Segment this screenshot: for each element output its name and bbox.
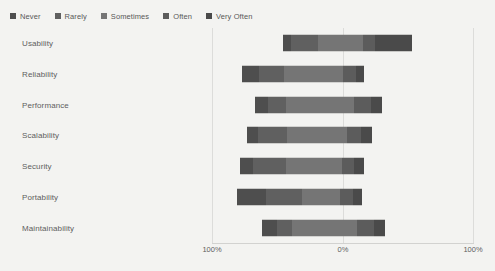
bar-segment-very-often[interactable] (374, 219, 384, 236)
legend-item-label: Never (20, 12, 41, 21)
category-label-scalability: Scalability (22, 131, 59, 140)
bar-segment-never[interactable] (247, 127, 257, 144)
legend-item-very-often[interactable]: Very Often (206, 12, 252, 21)
stacked-bar-scalability[interactable] (247, 127, 371, 144)
chart-row: Scalability (0, 120, 495, 151)
bar-segment-rarely[interactable] (291, 35, 318, 52)
bar-segment-sometimes[interactable] (318, 35, 363, 52)
bar-segment-rarely[interactable] (259, 66, 284, 83)
bar-segment-rarely[interactable] (266, 188, 303, 205)
bar-segment-never[interactable] (240, 158, 253, 175)
legend-item-never[interactable]: Never (10, 12, 41, 21)
bar-segment-sometimes[interactable] (286, 158, 342, 175)
likert-chart: NeverRarelySometimesOftenVery Often Usab… (0, 0, 495, 271)
legend-item-label: Rarely (65, 12, 87, 21)
stacked-bar-maintainability[interactable] (262, 219, 385, 236)
bar-segment-rarely[interactable] (258, 127, 288, 144)
bar-segment-sometimes[interactable] (287, 127, 347, 144)
legend-item-label: Sometimes (111, 12, 149, 21)
legend-square-swatch (163, 13, 169, 19)
bar-segment-very-often[interactable] (371, 96, 382, 113)
category-label-portability: Portability (22, 192, 58, 201)
legend-item-label: Very Often (216, 12, 252, 21)
bar-segment-never[interactable] (255, 96, 268, 113)
chart-row: Performance (0, 89, 495, 120)
stacked-bar-performance[interactable] (255, 96, 382, 113)
bar-segment-often[interactable] (354, 96, 371, 113)
legend-square-swatch (55, 13, 61, 19)
chart-row: Usability (0, 28, 495, 59)
bar-segment-very-often[interactable] (356, 66, 364, 83)
legend-square-swatch (206, 13, 212, 19)
category-label-usability: Usability (22, 39, 53, 48)
bar-segment-rarely[interactable] (268, 96, 285, 113)
stacked-bar-reliability[interactable] (242, 66, 364, 83)
legend-square-swatch (10, 13, 16, 19)
chart-row: Maintainability (0, 212, 495, 243)
legend-item-often[interactable]: Often (163, 12, 192, 21)
stacked-bar-usability[interactable] (283, 35, 412, 52)
bar-segment-rarely[interactable] (253, 158, 286, 175)
bar-segment-often[interactable] (343, 66, 356, 83)
bar-segment-often[interactable] (363, 35, 375, 52)
category-label-reliability: Reliability (22, 70, 57, 79)
bar-segment-very-often[interactable] (361, 127, 371, 144)
x-axis-line (212, 243, 474, 244)
legend-item-rarely[interactable]: Rarely (55, 12, 87, 21)
bar-segment-often[interactable] (340, 188, 353, 205)
category-label-maintainability: Maintainability (22, 223, 74, 232)
legend-item-sometimes[interactable]: Sometimes (101, 12, 149, 21)
chart-row: Reliability (0, 59, 495, 90)
chart-row: Security (0, 151, 495, 182)
x-tick-label: 100% (202, 245, 221, 254)
x-axis-tick-labels: 100%0%100% (0, 245, 495, 259)
legend-square-swatch (101, 13, 107, 19)
x-tick-label: 0% (338, 245, 349, 254)
stacked-bar-portability[interactable] (237, 188, 363, 205)
chart-row: Portability (0, 182, 495, 213)
bar-segment-very-often[interactable] (354, 158, 364, 175)
bar-segment-sometimes[interactable] (302, 188, 340, 205)
bar-segment-never[interactable] (242, 66, 259, 83)
bar-segment-rarely[interactable] (277, 219, 291, 236)
bar-segment-very-often[interactable] (353, 188, 362, 205)
category-label-security: Security (22, 162, 52, 171)
bar-segment-very-often[interactable] (375, 35, 412, 52)
bar-segment-often[interactable] (342, 158, 354, 175)
bar-segment-sometimes[interactable] (284, 66, 344, 83)
legend-item-label: Often (173, 12, 192, 21)
chart-legend: NeverRarelySometimesOftenVery Often (10, 9, 253, 23)
bar-segment-never[interactable] (262, 219, 278, 236)
category-label-performance: Performance (22, 100, 69, 109)
x-tick-label: 100% (463, 245, 482, 254)
bar-segment-often[interactable] (347, 127, 361, 144)
bar-segment-sometimes[interactable] (286, 96, 355, 113)
plot-area: UsabilityReliabilityPerformanceScalabili… (0, 28, 495, 243)
bar-segment-often[interactable] (357, 219, 374, 236)
bar-segment-never[interactable] (283, 35, 291, 52)
bar-segment-sometimes[interactable] (292, 219, 357, 236)
stacked-bar-security[interactable] (240, 158, 364, 175)
bar-segment-never[interactable] (237, 188, 266, 205)
